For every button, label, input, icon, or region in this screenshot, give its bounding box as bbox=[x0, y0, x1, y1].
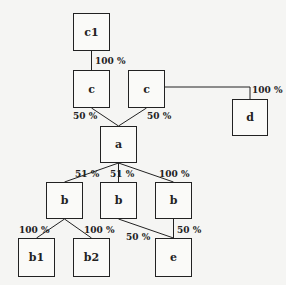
label-b-right-e: 50 % bbox=[177, 226, 201, 235]
label-c1-c-left: 100 % bbox=[95, 57, 125, 66]
label-b-mid-e: 50 % bbox=[126, 233, 150, 242]
label-b-left-b1: 100 % bbox=[19, 226, 49, 235]
label-b-left-b2: 100 % bbox=[84, 226, 114, 235]
edge-c-right-a bbox=[119, 108, 147, 126]
node-b2: b2 bbox=[73, 238, 110, 277]
node-b-left: b bbox=[46, 182, 83, 219]
node-a: a bbox=[100, 126, 137, 163]
node-b-right: b bbox=[155, 182, 192, 219]
node-c1: c1 bbox=[73, 13, 110, 51]
node-e: e bbox=[155, 238, 192, 277]
ownership-diagram: c1 c c d a b b b b1 b2 e 100 % 100 % 50 … bbox=[0, 0, 286, 285]
node-d: d bbox=[232, 99, 268, 136]
label-a-b-left: 51 % bbox=[75, 170, 99, 179]
label-c-left-a: 50 % bbox=[73, 112, 97, 121]
label-a-b-right: 100 % bbox=[159, 170, 189, 179]
label-c-right-d: 100 % bbox=[252, 86, 282, 95]
node-c-left: c bbox=[73, 70, 110, 108]
node-b-mid: b bbox=[100, 182, 137, 219]
label-a-b-mid: 51 % bbox=[110, 170, 134, 179]
node-b1: b1 bbox=[18, 238, 55, 277]
edge-c-right-d bbox=[165, 87, 250, 99]
label-c-right-a: 50 % bbox=[147, 112, 171, 121]
node-c-right: c bbox=[128, 70, 165, 108]
